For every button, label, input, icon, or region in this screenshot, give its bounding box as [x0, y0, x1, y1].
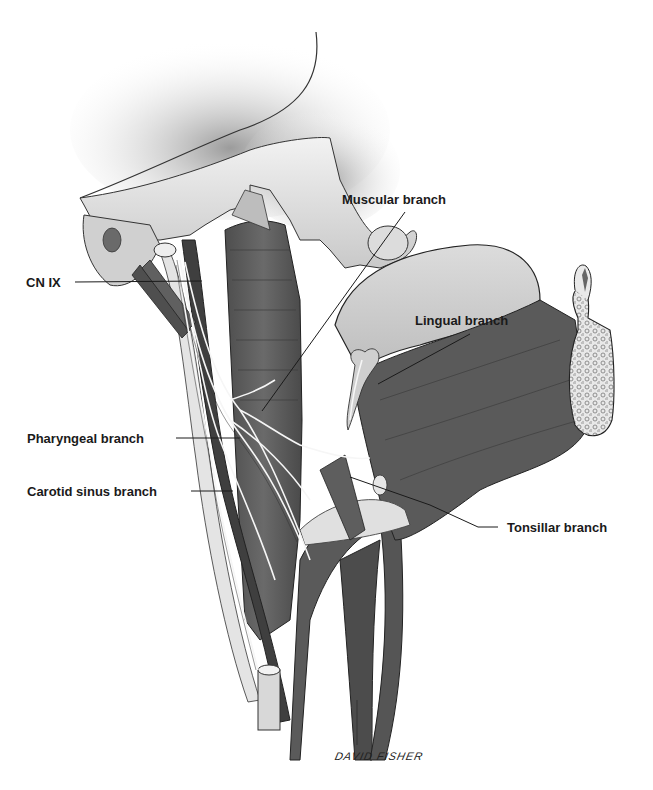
label-lingual-branch: Lingual branch	[415, 314, 508, 327]
pharyngeal-muscle	[225, 190, 302, 640]
mandible-section	[569, 265, 614, 436]
anatomy-illustration	[0, 0, 653, 790]
artist-signature: DAVID FISHER	[334, 750, 425, 762]
label-cn-ix: CN IX	[26, 276, 61, 289]
tongue	[335, 245, 590, 540]
label-carotid-sinus-branch: Carotid sinus branch	[27, 485, 157, 498]
label-tonsillar-branch: Tonsillar branch	[507, 521, 607, 534]
label-muscular-branch: Muscular branch	[342, 193, 446, 206]
label-pharyngeal-branch: Pharyngeal branch	[27, 432, 144, 445]
anatomy-figure: CN IX Muscular branch Lingual branch Pha…	[0, 0, 653, 790]
leader-cn-ix	[75, 281, 202, 282]
